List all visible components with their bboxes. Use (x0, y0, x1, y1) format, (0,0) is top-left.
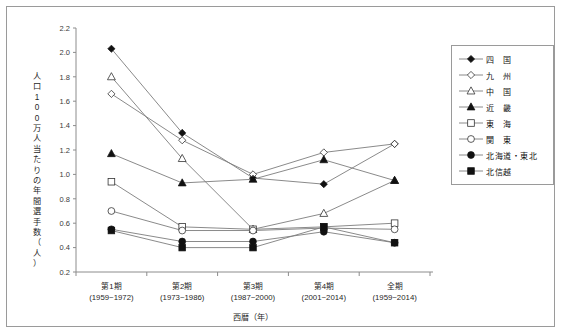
legend-label: 四 国 (484, 54, 512, 65)
legend-label: 東 海 (484, 118, 512, 129)
legend-marker-icon (458, 101, 484, 113)
y-axis-title-char: 万 (33, 124, 41, 133)
y-axis-title-char: 0 (35, 103, 40, 112)
y-axis-title-char: 数 (33, 227, 41, 237)
data-point-marker (391, 140, 398, 147)
data-point-marker (320, 209, 328, 216)
y-axis-title-char: ） (33, 259, 41, 268)
y-axis-title-char: 人 (33, 134, 41, 143)
data-point-marker (250, 244, 257, 251)
data-point-marker (467, 55, 474, 62)
y-axis-title-char: 手 (33, 217, 41, 227)
legend-label: 北信越 (484, 166, 512, 177)
series-group (108, 90, 398, 178)
x-tick-sublabel: (1959~2014) (372, 293, 417, 302)
legend-label: 関 東 (484, 134, 512, 145)
x-tick-sublabel: (2001~2014) (302, 293, 347, 302)
y-tick-label: 2.0 (60, 48, 70, 57)
legend-label: 近 畿 (484, 102, 512, 113)
x-tick-label: 全期 (387, 281, 403, 291)
y-tick-label: 0.6 (60, 219, 70, 228)
y-tick-label: 0.4 (60, 243, 70, 252)
data-point-marker (468, 168, 475, 175)
series-group (108, 45, 398, 188)
legend-marker-icon (458, 85, 484, 97)
data-point-marker (179, 227, 186, 234)
y-tick-label: 1.6 (60, 97, 70, 106)
y-tick-label: 1.8 (60, 73, 70, 82)
data-point-marker (250, 238, 257, 245)
y-axis-title-char: 人 (33, 249, 41, 258)
y-tick-label: 1.2 (60, 146, 70, 155)
x-axis-title: 西暦（年） (233, 312, 273, 322)
data-point-marker (467, 87, 475, 94)
data-point-marker (179, 244, 186, 251)
data-point-marker (467, 103, 475, 110)
legend-item[interactable]: 関 東 (458, 131, 549, 147)
y-axis-title-char: （ (33, 238, 41, 247)
y-axis-title-char: 選 (33, 206, 41, 216)
x-tick-label: 第1期 (101, 281, 121, 291)
data-point-marker (179, 238, 186, 245)
chart-outer-frame: 2.22.01.81.61.41.21.00.80.60.40.2人口100万人… (6, 6, 555, 327)
series-line (111, 49, 394, 184)
data-point-marker (320, 224, 327, 231)
y-tick-label: 0.8 (60, 195, 70, 204)
data-point-marker (468, 120, 475, 127)
legend-item[interactable]: 中 国 (458, 83, 549, 99)
legend-marker-icon (458, 53, 484, 65)
legend-marker-icon (458, 149, 484, 161)
data-point-marker (107, 150, 115, 157)
legend-item[interactable]: 四 国 (458, 51, 549, 67)
x-tick-sublabel: (1987~2000) (231, 293, 276, 302)
x-tick-sublabel: (1959~1972) (89, 293, 134, 302)
legend-item[interactable]: 九 州 (458, 67, 549, 83)
legend-label: 中 国 (484, 86, 512, 97)
legend-marker-icon (458, 133, 484, 145)
y-axis-title-char: 人 (33, 72, 41, 81)
series-line (111, 94, 394, 175)
data-point-marker (108, 178, 115, 185)
series-group (108, 208, 398, 234)
legend-marker-icon (458, 117, 484, 129)
y-axis-title-char: 口 (33, 82, 41, 91)
legend-marker-icon (458, 69, 484, 81)
data-point-marker (391, 226, 398, 233)
data-point-marker (320, 181, 327, 188)
data-point-marker (468, 152, 475, 159)
y-axis-title-char: 1 (35, 93, 40, 102)
x-tick-label: 第2期 (172, 281, 192, 291)
y-tick-label: 2.2 (60, 24, 70, 33)
legend-label: 九 州 (484, 70, 512, 81)
legend-item[interactable]: 北海道・東北 (458, 147, 549, 163)
data-point-marker (108, 227, 115, 234)
x-tick-sublabel: (1973~1986) (160, 293, 205, 302)
series-line (111, 182, 394, 230)
y-tick-label: 0.2 (60, 268, 70, 277)
data-point-marker (391, 239, 398, 246)
y-axis-title-char: 0 (35, 114, 40, 123)
data-point-marker (320, 156, 328, 163)
y-axis-title-char: の (33, 176, 41, 185)
x-tick-label: 第4期 (314, 281, 334, 291)
y-axis-title-char: 間 (33, 197, 41, 206)
legend-item[interactable]: 東 海 (458, 115, 549, 131)
y-axis-title-char: 当 (33, 144, 41, 154)
legend-item[interactable]: 北信越 (458, 163, 549, 179)
legend-marker-icon (458, 165, 484, 177)
data-point-marker (108, 208, 115, 215)
y-tick-label: 1.0 (60, 170, 70, 179)
chart-legend: 四 国九 州中 国近 畿東 海関 東北海道・東北北信越 (451, 45, 554, 185)
x-tick-label: 第3期 (243, 281, 263, 291)
y-axis-title-char: た (33, 155, 41, 164)
data-point-marker (108, 90, 115, 97)
y-tick-label: 1.4 (60, 121, 70, 130)
y-axis-title-char: り (33, 166, 41, 175)
legend-item[interactable]: 近 畿 (458, 99, 549, 115)
y-axis-title-char: 年 (33, 185, 41, 195)
data-point-marker (250, 227, 257, 234)
series-group (107, 150, 398, 186)
data-point-marker (107, 73, 115, 80)
data-point-marker (468, 136, 475, 143)
legend-label: 北海道・東北 (484, 150, 537, 161)
